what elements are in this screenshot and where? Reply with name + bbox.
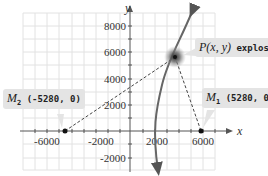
y-tick-8000: 8000 [104, 20, 127, 32]
explosion-callout: P(x, y) explosion [195, 38, 268, 57]
dashed-lines [65, 57, 201, 131]
x-axis-label: x [236, 124, 243, 138]
x-tick-2000: 2000 [146, 135, 169, 147]
y-tick-neg2000: -2000 [100, 152, 126, 164]
point-m1 [199, 129, 204, 134]
y-tick-4000: 4000 [104, 73, 127, 85]
x-tick-neg2000: -2000 [88, 135, 114, 147]
point-p [173, 55, 177, 59]
m2-callout: M2 (-5280, 0) [3, 89, 85, 109]
y-tick-6000: 6000 [104, 46, 127, 58]
point-m2 [63, 129, 68, 134]
tick-labels: 8000 6000 4000 2000 -2000 -6000 -2000 20… [34, 1, 243, 164]
x-tick-6000: 6000 [192, 135, 215, 147]
m1-callout: M1 (5280, 0) [202, 88, 268, 108]
y-tick-2000: 2000 [104, 99, 127, 111]
hyperbola-diagram: 8000 6000 4000 2000 -2000 -6000 -2000 20… [0, 0, 268, 176]
y-axis-label: y [124, 1, 131, 15]
x-tick-neg6000: -6000 [34, 135, 60, 147]
